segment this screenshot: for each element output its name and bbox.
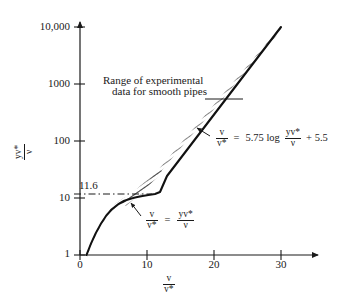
y-axis-title-denominator: ν	[25, 144, 35, 160]
sublayer-lhs-denominator: v*	[146, 221, 158, 231]
x-axis-title-denominator: v*	[163, 285, 175, 295]
figure-universal-velocity-profile: 10,000 1000 100 10 1 0 10 20 30 yv* ν v …	[0, 0, 347, 303]
x-tick-label-20: 20	[204, 259, 224, 270]
y-tick-label-1000: 1000	[16, 78, 70, 89]
log-law-arg-denominator: ν	[285, 139, 301, 149]
leader-arrow-viscous-sublayer	[131, 203, 141, 216]
y-axis-title: yv* ν	[14, 144, 35, 160]
annotation-viscous-sublayer-equation: v v* = yv* ν	[146, 210, 194, 231]
axis-y	[74, 22, 85, 255]
annotation-log-law-equation: v v* = 5.75 log yv* ν + 5.5	[216, 128, 328, 149]
x-tick-label-10: 10	[137, 259, 157, 270]
y-tick-label-10000: 10,000	[16, 21, 70, 32]
annotation-11-6: 11.6	[79, 180, 98, 191]
x-axis-title: v v*	[163, 274, 175, 295]
log-law-coefficient: 5.75 log	[245, 133, 279, 144]
y-tick-label-10: 10	[16, 192, 70, 203]
annotation-experimental-range-line2: data for smooth pipes	[103, 86, 207, 97]
y-tick-label-1: 1	[16, 248, 70, 259]
sublayer-equals: =	[162, 215, 174, 226]
annotation-experimental-range: Range of experimental data for smooth pi…	[103, 75, 207, 97]
log-law-equals: =	[232, 133, 242, 144]
x-tick-label-0: 0	[70, 259, 90, 270]
log-law-constant: + 5.5	[306, 133, 328, 144]
sublayer-rhs-denominator: ν	[177, 221, 193, 231]
x-tick-label-30: 30	[271, 259, 291, 270]
log-law-lhs-denominator: v*	[216, 139, 228, 149]
